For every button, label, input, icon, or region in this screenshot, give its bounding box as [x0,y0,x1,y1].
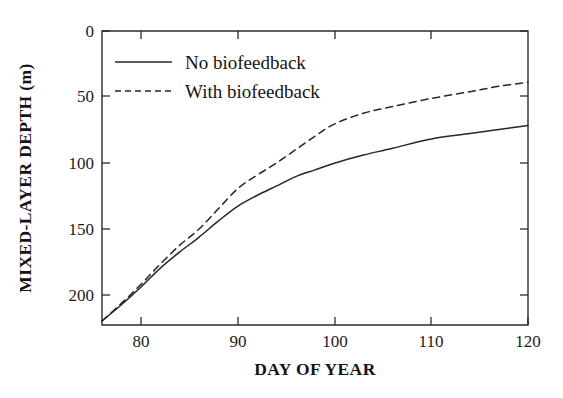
data-series-group [102,82,528,321]
x-tick-label-110: 110 [419,332,444,351]
y-tick-label-200: 200 [69,286,95,305]
series-line-with-biofeedback [102,82,528,321]
y-tick-label-50: 50 [77,87,94,106]
y-axis-title: MIXED-LAYER DEPTH (m) [15,63,35,292]
x-axis-tick-labels: 80 90 100 110 120 [133,332,541,351]
x-tick-label-120: 120 [515,332,541,351]
axis-box [102,31,528,325]
y-tick-label-0: 0 [86,22,95,41]
series-line-no-biofeedback [102,125,528,321]
x-axis-title: DAY OF YEAR [254,359,375,379]
x-axis-ticks [141,31,528,325]
y-tick-label-100: 100 [69,154,95,173]
y-axis-ticks [102,31,528,295]
y-axis-tick-labels: 0 50 100 150 200 [69,22,95,305]
legend-label-with-biofeedback: With biofeedback [185,81,320,102]
mixed-layer-depth-chart: 0 50 100 150 200 80 90 100 110 120 [0,0,563,398]
figure-container: 0 50 100 150 200 80 90 100 110 120 [0,0,563,398]
plot-frame [102,31,528,325]
x-tick-label-80: 80 [133,332,150,351]
x-tick-label-90: 90 [230,332,247,351]
x-tick-label-100: 100 [322,332,348,351]
legend-label-no-biofeedback: No biofeedback [185,52,306,73]
y-tick-label-150: 150 [69,220,95,239]
chart-legend: No biofeedback With biofeedback [115,52,320,102]
